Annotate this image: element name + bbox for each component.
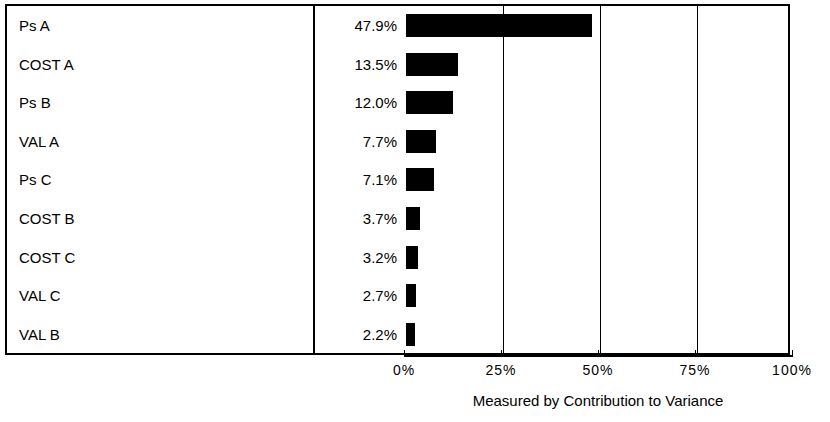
chart-row: Ps A47.9% [7, 7, 788, 46]
bar [406, 168, 434, 191]
bar [406, 207, 420, 230]
x-axis-tick-label: 0% [393, 362, 415, 378]
value-label: 13.5% [217, 46, 397, 85]
category-label: Ps C [19, 161, 52, 200]
x-axis-tick-label: 25% [485, 362, 516, 378]
category-label: Ps B [19, 84, 51, 123]
category-label: Ps A [19, 7, 50, 46]
value-label: 2.2% [217, 316, 397, 355]
x-axis-tick [792, 350, 793, 357]
bar [406, 53, 458, 76]
bar [406, 284, 416, 307]
chart-row: VAL A7.7% [7, 123, 788, 162]
bar-track [406, 316, 794, 355]
chart-row: COST A13.5% [7, 46, 788, 85]
category-label: COST A [19, 46, 74, 85]
bar-track [406, 200, 794, 239]
value-label: 3.2% [217, 239, 397, 278]
value-label: 12.0% [217, 84, 397, 123]
bar [406, 130, 436, 153]
category-label: VAL B [19, 316, 60, 355]
chart-row: COST B3.7% [7, 200, 788, 239]
chart-row: Ps B12.0% [7, 84, 788, 123]
value-label: 3.7% [217, 200, 397, 239]
chart-row: Ps C7.1% [7, 161, 788, 200]
value-label: 7.1% [217, 161, 397, 200]
chart-row: COST C3.2% [7, 239, 788, 278]
value-label: 47.9% [217, 7, 397, 46]
value-label: 2.7% [217, 277, 397, 316]
category-label: VAL A [19, 123, 59, 162]
x-axis-tick [501, 350, 502, 357]
bar-track [406, 161, 794, 200]
x-axis-tick [695, 350, 696, 357]
category-label: COST B [19, 200, 75, 239]
bar [406, 246, 418, 269]
bar-track [406, 84, 794, 123]
value-label: 7.7% [217, 123, 397, 162]
category-label: COST C [19, 239, 75, 278]
bar-track [406, 123, 794, 162]
chart-plot-frame: Ps A47.9%COST A13.5%Ps B12.0%VAL A7.7%Ps… [5, 4, 790, 355]
bar [406, 323, 415, 346]
x-axis-caption: Measured by Contribution to Variance [404, 392, 792, 409]
chart-row: VAL B2.2% [7, 316, 788, 355]
bar-chart-figure: Ps A47.9%COST A13.5%Ps B12.0%VAL A7.7%Ps… [0, 0, 830, 422]
category-label: VAL C [19, 277, 61, 316]
bar [406, 91, 453, 114]
bar-track [406, 277, 794, 316]
bar-track [406, 46, 794, 85]
x-axis-tick [598, 350, 599, 357]
x-axis-tick-label: 50% [582, 362, 613, 378]
x-axis-tick-label: 75% [679, 362, 710, 378]
x-axis-tick [404, 350, 405, 357]
bar-track [406, 7, 794, 46]
x-axis-tick-label: 100% [772, 362, 812, 378]
chart-row: VAL C2.7% [7, 277, 788, 316]
bar [406, 14, 592, 37]
bar-track [406, 239, 794, 278]
